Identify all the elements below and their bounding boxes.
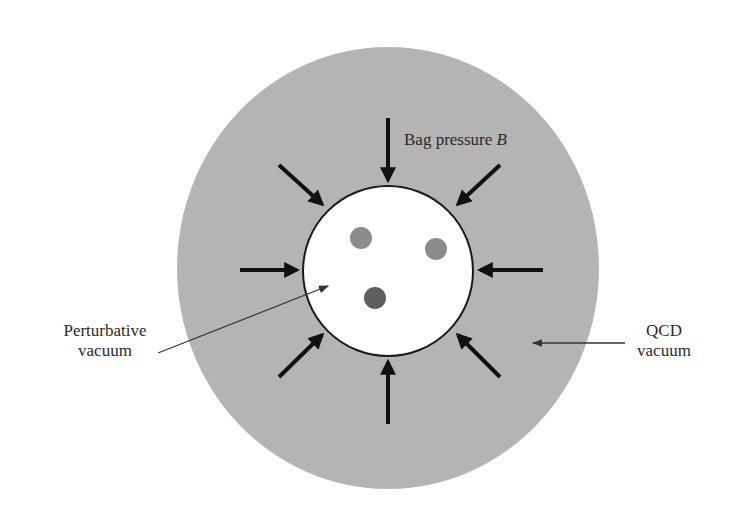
- perturbative-label-line1: Perturbative: [50, 321, 160, 341]
- qcd-label-line1: QCD: [624, 321, 704, 341]
- bag-pressure-symbol: B: [497, 130, 507, 149]
- perturbative-label-line2: vacuum: [50, 341, 160, 361]
- qcd-vacuum-label: QCD vacuum: [624, 321, 704, 361]
- quark-1: [350, 227, 372, 249]
- bag-pressure-text: Bag pressure: [404, 130, 497, 149]
- bag-pressure-label: Bag pressure B: [404, 130, 507, 150]
- perturbative-vacuum-label: Perturbative vacuum: [50, 321, 160, 361]
- qcd-label-line2: vacuum: [624, 341, 704, 361]
- quark-3: [364, 287, 386, 309]
- diagram-graphics: [0, 0, 730, 530]
- quark-2: [425, 238, 447, 260]
- perturbative-vacuum-bag: [303, 186, 473, 356]
- bag-model-diagram: Bag pressure B Perturbative vacuum QCD v…: [0, 0, 730, 530]
